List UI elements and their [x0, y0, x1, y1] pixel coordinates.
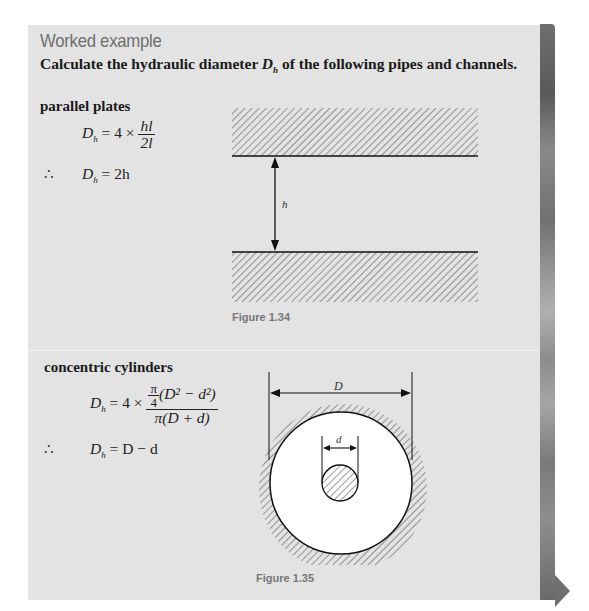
therefore-symbol: ∴ [44, 440, 54, 458]
therefore-symbol: ∴ [44, 165, 54, 183]
concentric-cylinders-diagram: D d [250, 350, 450, 565]
intro-statement: Calculate the hydraulic diameter Dh of t… [40, 55, 517, 75]
next-page-arrow-icon[interactable] [555, 575, 570, 607]
section-heading-parallel-plates: parallel plates [40, 98, 130, 115]
section-heading-concentric-cylinders: concentric cylinders [44, 359, 173, 376]
figure-caption-1-34: Figure 1.34 [232, 311, 290, 323]
figure-caption-1-35: Figure 1.35 [256, 572, 314, 584]
outer-diameter-label: D [333, 379, 343, 393]
page-top-margin [0, 0, 589, 8]
fraction: hl2l [138, 118, 154, 151]
fraction: π4(D² − d²)π(D + d) [146, 382, 217, 426]
inner-diameter-label: d [336, 433, 342, 445]
equation-parallel-plates-2: Dh = 2h [82, 165, 130, 185]
equation-concentric-cylinders-1: Dh = 4 × π4(D² − d²)π(D + d) [90, 382, 218, 426]
parallel-plates-diagram: h [230, 80, 510, 320]
equation-parallel-plates-1: Dh = 4 × hl2l [82, 118, 155, 151]
worked-example-title: Worked example [40, 30, 161, 52]
decorative-side-strip [540, 24, 555, 600]
equation-concentric-cylinders-2: Dh = D − d [90, 440, 158, 460]
gap-height-label: h [282, 198, 288, 210]
